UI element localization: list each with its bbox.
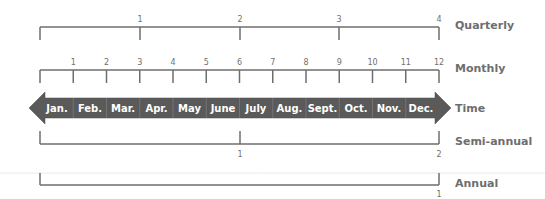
monthly-tick: 9 xyxy=(337,58,342,67)
monthly-tick: 4 xyxy=(170,58,175,67)
semiannual-scale xyxy=(40,131,439,144)
monthly-scale xyxy=(40,70,439,83)
month-label: Jan. xyxy=(45,103,67,114)
month-label: July xyxy=(245,103,267,114)
month-label: Dec. xyxy=(409,103,434,114)
monthly-tick: 10 xyxy=(367,58,377,67)
quarterly-tick: 3 xyxy=(336,15,341,24)
timeline-diagram: 1 2 3 4 Quarterly 1 2 3 4 5 6 7 8 9 10 1… xyxy=(0,0,545,199)
time-label: Time xyxy=(455,102,485,115)
month-label: Aug. xyxy=(277,103,303,114)
annual-tick: 1 xyxy=(436,190,441,199)
month-label: May xyxy=(178,103,201,114)
monthly-tick: 5 xyxy=(204,58,209,67)
quarterly-tick: 1 xyxy=(137,15,142,24)
semiannual-tick: 1 xyxy=(237,150,242,159)
month-label: Feb. xyxy=(78,103,102,114)
month-label: Nov. xyxy=(377,103,402,114)
monthly-tick: 12 xyxy=(434,58,444,67)
quarterly-tick: 2 xyxy=(237,15,242,24)
annual-label: Annual xyxy=(455,177,498,190)
monthly-tick: 2 xyxy=(104,58,109,67)
monthly-tick: 1 xyxy=(71,58,76,67)
month-label: Mar. xyxy=(111,103,135,114)
quarterly-tick: 4 xyxy=(436,15,441,24)
quarterly-scale xyxy=(40,27,439,40)
semiannual-label: Semi-annual xyxy=(455,135,532,148)
month-label: Apr. xyxy=(145,103,167,114)
annual-scale xyxy=(40,173,439,185)
month-label: Sept. xyxy=(308,103,338,114)
monthly-tick: 7 xyxy=(270,58,275,67)
monthly-tick: 8 xyxy=(303,58,308,67)
month-label: Oct. xyxy=(344,103,367,114)
semiannual-tick: 2 xyxy=(436,150,441,159)
monthly-tick: 6 xyxy=(237,58,242,67)
monthly-tick: 3 xyxy=(137,58,142,67)
quarterly-label: Quarterly xyxy=(455,19,514,32)
month-label: June xyxy=(210,103,236,114)
monthly-tick: 11 xyxy=(401,58,411,67)
monthly-label: Monthly xyxy=(455,62,505,75)
